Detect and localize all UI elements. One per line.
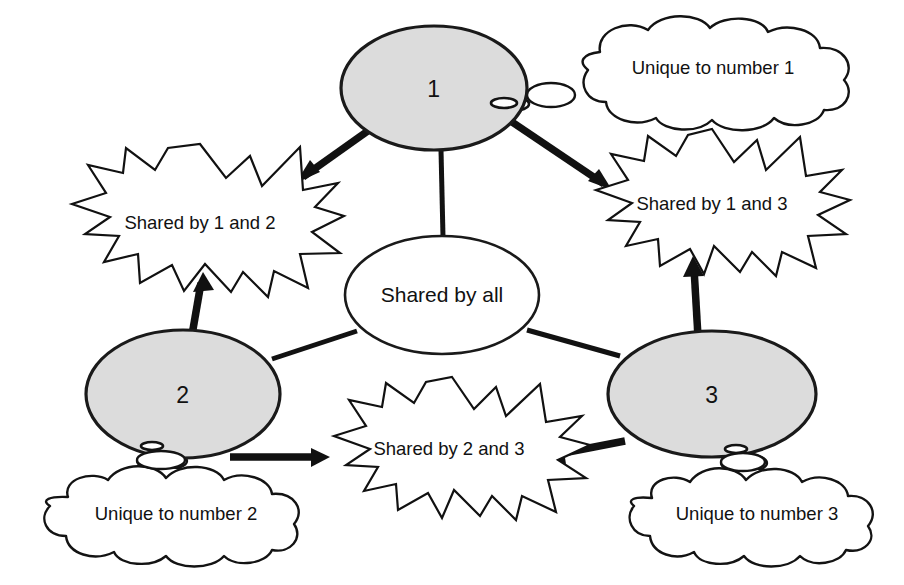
cloud-1-tail-overlay: [491, 98, 517, 108]
arrow-head: [311, 448, 330, 467]
connector-node3-to-center: [527, 330, 620, 356]
arrow-node2-to-burst-1-2: [192, 272, 214, 335]
burst-shared-by-1-and-2[interactable]: Shared by 1 and 2: [72, 144, 344, 297]
arrow-shaft: [512, 122, 604, 184]
burst-label-2-3: Shared by 2 and 3: [373, 438, 524, 459]
connector-node1-to-center: [441, 150, 443, 237]
node-ellipse-3[interactable]: 3: [608, 331, 816, 457]
diagram-canvas: Shared by 1 and 2 Shared by 1 and 3 Shar…: [0, 0, 904, 585]
node-1-label: 1: [427, 76, 440, 102]
burst-label-1-2: Shared by 1 and 2: [124, 212, 275, 233]
node-ellipse-2[interactable]: 2: [86, 330, 280, 458]
cloud-label-unique-2: Unique to number 2: [95, 503, 258, 524]
relationship-diagram: Shared by 1 and 2 Shared by 1 and 3 Shar…: [0, 0, 904, 585]
cloud-tail-bubble-innermost: [141, 442, 163, 450]
node-3-label: 3: [705, 382, 718, 408]
center-node-shared-by-all[interactable]: Shared by all: [345, 236, 539, 354]
connector-node2-to-center: [272, 331, 357, 359]
thought-cloud-unique-to-number-1[interactable]: Unique to number 1: [495, 16, 849, 130]
cloud-tail-bubble-innermost: [491, 98, 517, 108]
cloud-tail-bubble-innermost: [725, 445, 747, 453]
burst-shared-by-1-and-3[interactable]: Shared by 1 and 3: [596, 129, 850, 276]
arrow-node2-to-burst-2-3: [230, 448, 330, 467]
arrow-node1-to-burst-1-3: [512, 122, 612, 190]
burst-label-1-3: Shared by 1 and 3: [636, 193, 787, 214]
cloud-label-unique-3: Unique to number 3: [676, 503, 839, 524]
node-ellipse-1[interactable]: 1: [341, 26, 527, 150]
arrow-shaft: [694, 268, 698, 337]
cloud-tail-bubble-second: [721, 453, 765, 471]
arrow-node1-to-burst-1-2: [296, 128, 372, 183]
cloud-label-unique-1: Unique to number 1: [632, 57, 795, 78]
burst-shared-by-2-and-3[interactable]: Shared by 2 and 3: [334, 377, 590, 520]
node-2-label: 2: [176, 382, 189, 408]
cloud-tail-bubble-second: [137, 451, 185, 469]
cloud-tail-bubble-medium: [527, 83, 575, 107]
center-label: Shared by all: [381, 283, 504, 306]
